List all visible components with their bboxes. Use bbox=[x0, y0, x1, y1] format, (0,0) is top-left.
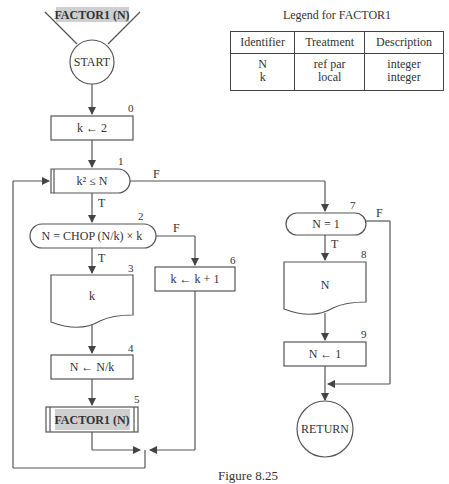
node-4-label: N ← N/k bbox=[70, 360, 115, 374]
branch-f-1: F bbox=[153, 167, 160, 181]
node-number-2: 2 bbox=[138, 210, 144, 222]
branch-t-7: T bbox=[331, 237, 339, 251]
legend-title: Legend for FACTOR1 bbox=[230, 8, 444, 23]
legend-cell: local bbox=[297, 71, 362, 84]
legend-cell: integer bbox=[367, 71, 441, 84]
legend-header-description: Description bbox=[365, 32, 444, 54]
node-number-1: 1 bbox=[118, 155, 124, 167]
node-number-0: 0 bbox=[128, 102, 134, 114]
node-5-label: FACTOR1 (N) bbox=[54, 413, 129, 427]
node-3-label: k bbox=[89, 289, 95, 303]
branch-t-2: T bbox=[98, 251, 106, 265]
branch-f-2: F bbox=[173, 221, 180, 235]
return-label: RETURN bbox=[301, 422, 349, 436]
legend-header-identifier: Identifier bbox=[231, 32, 295, 54]
branch-f-7: F bbox=[376, 206, 383, 220]
node-1-label: k² ≤ N bbox=[77, 174, 108, 188]
node-number-9: 9 bbox=[361, 328, 367, 340]
legend-cell: k bbox=[233, 71, 292, 84]
legend-table: Identifier Treatment Description N k ref… bbox=[230, 31, 444, 91]
start-label: START bbox=[74, 55, 111, 69]
node-number-5: 5 bbox=[134, 393, 140, 405]
figure-caption: Figure 8.25 bbox=[218, 468, 278, 484]
legend-treatments: ref par local bbox=[295, 54, 365, 91]
node-7-label: N = 1 bbox=[312, 217, 339, 231]
node-8-label: N bbox=[321, 278, 330, 292]
node-0-label: k ← 2 bbox=[77, 121, 107, 135]
node-number-8: 8 bbox=[361, 248, 367, 260]
node-9-label: N ← 1 bbox=[309, 347, 342, 361]
node-2-label: N = CHOP (N/k) × k bbox=[42, 229, 143, 243]
node-number-3: 3 bbox=[128, 262, 134, 274]
node-number-7: 7 bbox=[350, 199, 356, 211]
node-number-4: 4 bbox=[128, 342, 134, 354]
legend-descriptions: integer integer bbox=[365, 54, 444, 91]
legend: Legend for FACTOR1 Identifier Treatment … bbox=[230, 8, 444, 91]
node-number-6: 6 bbox=[230, 254, 236, 266]
node-6-label: k ← k + 1 bbox=[171, 272, 220, 286]
branch-t-1: T bbox=[98, 196, 106, 210]
legend-header-treatment: Treatment bbox=[295, 32, 365, 54]
entry-label: FACTOR1 (N) bbox=[54, 8, 129, 22]
legend-identifiers: N k bbox=[231, 54, 295, 91]
